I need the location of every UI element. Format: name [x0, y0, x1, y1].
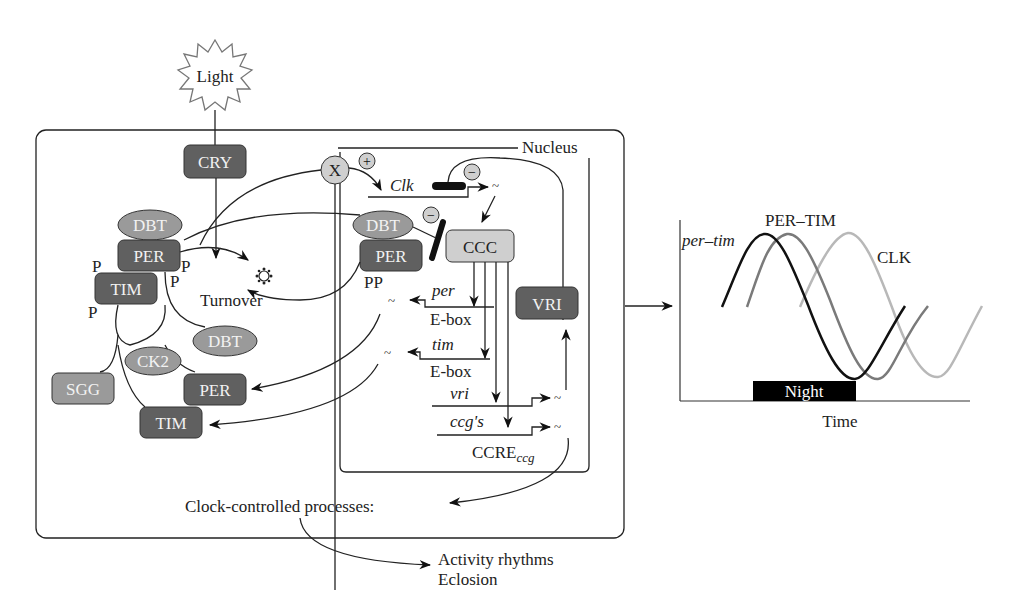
output-arrow [300, 518, 430, 565]
tim-new-box: TIM [140, 407, 202, 438]
svg-text:CRY: CRY [198, 153, 232, 172]
tim-complex-box: TIM [95, 273, 157, 304]
svg-text:X: X [329, 161, 341, 180]
tim-sgg-line [100, 335, 118, 372]
svg-text:CK2: CK2 [137, 352, 169, 371]
clk-gene-label: Clk [390, 176, 414, 195]
svg-text:PER: PER [133, 247, 165, 266]
light-label: Light [197, 67, 234, 86]
per-mrna-to-per-arrow [252, 314, 380, 389]
nucleus-label: Nucleus [522, 138, 578, 157]
turnover-label: Turnover [200, 291, 263, 310]
x-axis-label: Time [822, 412, 857, 431]
clk-repressor-bar [432, 182, 466, 190]
svg-text:VRI: VRI [532, 295, 562, 314]
output-activity-rhythms: Activity rhythms [438, 550, 554, 569]
x-to-clk-arrow [349, 168, 381, 190]
ccg-mrna-icon: ~ [554, 419, 561, 434]
svg-text:+: + [363, 154, 371, 169]
dbt-free-oval: DBT [193, 326, 257, 356]
clock-outputs-label: Clock-controlled processes: [185, 497, 374, 516]
per-gene-label: per [431, 281, 455, 300]
tim-gene-label: tim [432, 335, 454, 354]
vri-box: VRI [516, 287, 578, 319]
ccc-repression-bar [432, 222, 443, 258]
phospho-label-4: P [88, 303, 97, 322]
svg-text:SGG: SGG [66, 380, 100, 399]
night-label: Night [785, 382, 824, 401]
legend-per-tim-protein: PER–TIM [765, 211, 836, 230]
turnover-icon [256, 268, 273, 285]
minus-icon-dbt: − [423, 207, 439, 223]
cry-box: CRY [184, 145, 246, 178]
phospho-label-2: P [181, 257, 190, 276]
svg-text:TIM: TIM [155, 414, 186, 433]
minus-icon-clk: − [464, 164, 480, 180]
clk-to-ccc-arrow [482, 196, 495, 222]
svg-text:DBT: DBT [366, 216, 401, 235]
svg-text:DBT: DBT [133, 216, 168, 235]
clk-gene-line [368, 187, 488, 197]
light-stimulus: Light [178, 40, 252, 110]
ccre-label: CCREccg [472, 443, 535, 465]
per-mrna-icon: ~ [388, 293, 395, 308]
x-to-per-line [200, 170, 321, 245]
pp-label: PP [364, 273, 383, 292]
tim-mrna-icon: ~ [384, 345, 391, 360]
ccc-box: CCC [446, 230, 514, 262]
per-tim-ck2-line [116, 305, 166, 345]
clk-mrna-icon: ~ [492, 178, 499, 193]
per-new-box: PER [184, 374, 246, 405]
legend-per-tim-mrna: per–tim [681, 231, 735, 250]
x-node: X [321, 156, 349, 184]
vri-mrna-icon: ~ [554, 390, 561, 405]
svg-text:PER: PER [375, 247, 407, 266]
ccg-gene-label: ccg's [450, 412, 484, 431]
dbt-oval-top: DBT [118, 210, 182, 240]
vri-gene-label: vri [450, 384, 469, 403]
legend-clk: CLK [877, 248, 912, 267]
nuclear-per-box: PER [360, 240, 422, 271]
per-gene-line [410, 300, 494, 307]
svg-text:CCC: CCC [463, 238, 497, 257]
phospho-label-1: P [92, 257, 101, 276]
phospho-label-3: P [170, 272, 179, 291]
per-complex-box: PER [118, 240, 180, 271]
output-eclosion: Eclosion [438, 570, 498, 589]
plus-icon: + [359, 153, 375, 169]
svg-text:−: − [427, 208, 435, 223]
svg-text:TIM: TIM [110, 280, 141, 299]
ebox-per-label: E-box [430, 310, 472, 329]
cell-boundary [36, 130, 624, 538]
nuclear-dbt-oval: DBT [353, 211, 413, 239]
dbt-to-bar-line [413, 227, 436, 238]
svg-text:−: − [468, 165, 476, 180]
sgg-box: SGG [52, 373, 114, 404]
rhythm-chart: Night Time per–tim PER–TIM CLK [680, 211, 982, 431]
ebox-tim-label: E-box [430, 362, 472, 381]
svg-text:DBT: DBT [208, 332, 243, 351]
ck2-oval: CK2 [125, 347, 181, 375]
svg-text:PER: PER [199, 381, 231, 400]
